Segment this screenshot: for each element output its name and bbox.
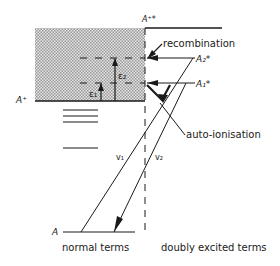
- transition-v2: [114, 83, 186, 232]
- label-recombination: recombination: [163, 38, 235, 49]
- label-v1: v₁: [116, 153, 124, 162]
- label-autoionisation: auto-ionisation: [186, 129, 261, 140]
- label-ion: A⁺: [15, 95, 27, 105]
- label-epsilon2: ε₂: [118, 71, 127, 81]
- label-a2: A₂*: [195, 54, 211, 64]
- v2-arrowhead: [114, 216, 123, 232]
- label-v2: v₂: [155, 153, 163, 162]
- label-normal-terms: normal terms: [62, 242, 129, 253]
- label-doubly-excited-terms: doubly excited terms: [161, 242, 267, 253]
- label-epsilon1: ε₁: [89, 89, 98, 99]
- autoionisation-pointer: [160, 103, 185, 135]
- label-ion-excited: A⁺*: [141, 15, 156, 24]
- autoionisation-energy-diagram: A⁺* A⁺ A₂* A₁* A ε₁ ε₂ v₁ v₂ recombinati…: [0, 0, 280, 266]
- label-a1: A₁*: [195, 79, 211, 89]
- label-ground: A: [51, 227, 58, 237]
